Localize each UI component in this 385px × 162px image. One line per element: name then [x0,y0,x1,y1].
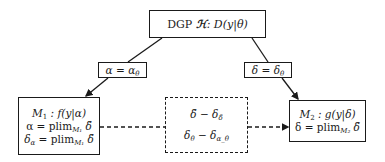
edge-delta-to-m2 [282,78,298,99]
edge-dgp-to-alpha [128,38,162,62]
model-1-delta-alpha-plim: δα = plimM₁ δ̃ [24,133,94,146]
model-1-alpha-plim: α = plimM₁ δ̃ [26,120,92,133]
dgp-label: DGP ℋ: D(y|θ) [167,18,248,31]
model-1-box: M1 : f(y|α) α = plimM₁ δ̃ δα = plimM₁ δ̃ [18,97,100,155]
alpha-symbol: α [106,64,113,76]
model-1-definition: M1 : f(y|α) [32,107,86,120]
parameter-difference-expression: δθ − δα_θ [184,129,229,142]
equals: = [113,64,128,76]
bias-comparison-box: δ̃ − δδ̃ δθ − δα_θ [165,97,248,153]
equals: = [258,64,273,76]
dgp-density: : D(y|θ) [207,18,248,31]
model-2-delta-plim: δ = plimM₂ δ̃ [295,121,360,134]
estimator-bias-expression: δ̃ − δδ̃ [190,108,222,121]
edge-alpha-to-m1 [86,78,108,96]
alpha-constraint-label: α = αθ [98,62,147,78]
model-2-definition: M2 : g(y|δ) [299,108,355,121]
model-2-box: M2 : g(y|δ) δ = plimM₂ δ̃ [289,100,366,142]
delta-constraint-label: δ = δθ [244,62,292,78]
theta-subscript: θ [280,70,284,78]
edge-dgp-to-delta [252,38,268,62]
dgp-prefix: DGP [167,18,196,31]
script-h-symbol: ℋ [196,18,207,31]
dgp-box: DGP ℋ: D(y|θ) [149,10,266,38]
theta-subscript: θ [135,70,139,78]
